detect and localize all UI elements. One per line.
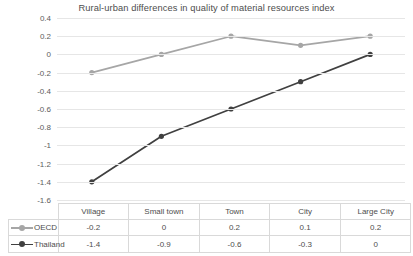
table-column-header: Small town <box>129 204 200 220</box>
y-axis-tick-label: -0.4 <box>37 86 51 95</box>
gridline <box>57 73 405 74</box>
data-point-marker <box>159 134 164 139</box>
table-row: Thailand-1.4-0.9-0.6-0.30 <box>9 236 411 252</box>
data-point-marker <box>298 43 303 48</box>
gridline <box>57 91 405 92</box>
gridline <box>57 127 405 128</box>
table-column-header: City <box>270 204 341 220</box>
y-axis-tick-label: 0 <box>47 50 51 59</box>
gridline <box>57 36 405 37</box>
table-row: OECD-0.200.20.10.2 <box>9 220 411 236</box>
table-cell-value: -0.9 <box>129 236 200 252</box>
table-cell-value: -1.4 <box>58 236 129 252</box>
table-cell-value: 0.2 <box>199 220 270 236</box>
table-corner-cell <box>9 204 59 220</box>
gridline <box>57 164 405 165</box>
y-axis-tick-label: -0.2 <box>37 68 51 77</box>
gridline <box>57 200 405 201</box>
data-table-body: VillageSmall townTownCityLarge CityOECD-… <box>9 204 411 253</box>
table-header-row: VillageSmall townTownCityLarge City <box>9 204 411 220</box>
y-axis-tick-label: -1 <box>44 141 51 150</box>
legend-marker-icon <box>11 240 33 249</box>
legend-dot <box>19 225 25 231</box>
table-cell-value: 0 <box>129 220 200 236</box>
legend-dot <box>19 241 25 247</box>
table-cell-value: -0.3 <box>270 236 341 252</box>
table-cell-value: -0.6 <box>199 236 270 252</box>
table-column-header: Large City <box>340 204 411 220</box>
y-axis: 0.40.20-0.2-0.4-0.6-0.8-1-1.2-1.4-1.6 <box>0 18 54 200</box>
y-axis-tick-label: -0.6 <box>37 105 51 114</box>
legend-entry-oecd: OECD <box>9 220 59 236</box>
table-column-header: Village <box>58 204 129 220</box>
legend-entry-thailand: Thailand <box>9 236 59 252</box>
table-column-header: Town <box>199 204 270 220</box>
table-cell-value: 0.1 <box>270 220 341 236</box>
chart-container: Rural-urban differences in quality of ma… <box>0 0 413 256</box>
y-axis-tick-label: -1.4 <box>37 177 51 186</box>
legend-label: OECD <box>34 220 57 235</box>
y-axis-tick-label: 0.2 <box>40 32 51 41</box>
gridline <box>57 182 405 183</box>
legend-marker-icon <box>11 223 33 232</box>
plot-area <box>57 18 405 200</box>
table-cell-value: 0.2 <box>340 220 411 236</box>
legend-label: Thailand <box>34 237 65 252</box>
data-table: VillageSmall townTownCityLarge CityOECD-… <box>8 203 411 253</box>
gridline <box>57 109 405 110</box>
plot-region: 0.40.20-0.2-0.4-0.6-0.8-1-1.2-1.4-1.6 <box>0 18 413 200</box>
y-axis-tick-label: -0.8 <box>37 123 51 132</box>
y-axis-tick-label: -1.2 <box>37 159 51 168</box>
gridline <box>57 145 405 146</box>
data-point-marker <box>298 79 303 84</box>
gridline <box>57 54 405 55</box>
chart-title: Rural-urban differences in quality of ma… <box>0 3 413 13</box>
y-axis-tick-label: 0.4 <box>40 14 51 23</box>
gridline <box>57 18 405 19</box>
table-cell-value: -0.2 <box>58 220 129 236</box>
table-cell-value: 0 <box>340 236 411 252</box>
